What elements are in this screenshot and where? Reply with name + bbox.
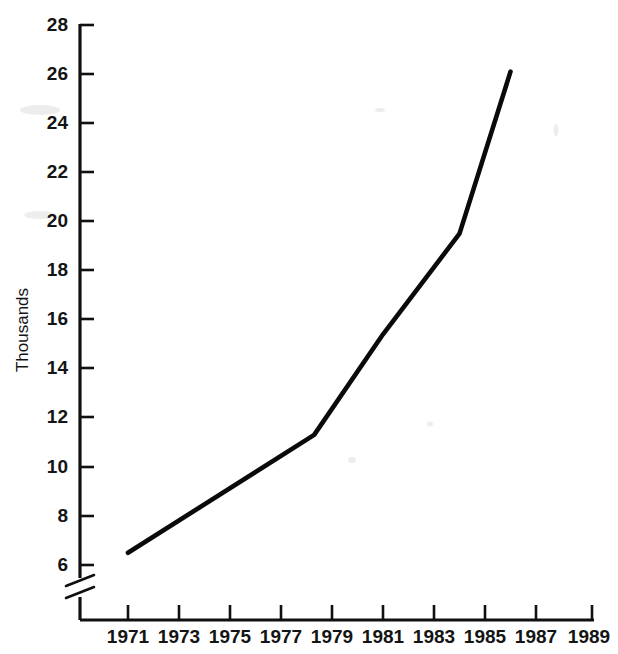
y-axis-title: Thousands [13, 288, 32, 372]
x-tick-label: 1971 [107, 626, 150, 647]
y-tick-label: 6 [57, 554, 68, 575]
y-tick-label: 28 [47, 14, 68, 35]
x-tick-label: 1989 [568, 626, 610, 647]
x-tick-label: 1977 [260, 626, 302, 647]
y-tick-label: 14 [47, 357, 69, 378]
x-tick-label: 1975 [209, 626, 252, 647]
x-tick-label: 1983 [413, 626, 455, 647]
y-tick-label: 10 [47, 456, 68, 477]
line-chart: 28 26 24 22 20 18 16 14 12 10 8 6 [0, 0, 618, 654]
y-tick-label: 16 [47, 308, 68, 329]
y-tick-label: 26 [47, 63, 68, 84]
y-tick-label: 18 [47, 259, 68, 280]
x-tick-label: 1985 [464, 626, 507, 647]
x-tick-label: 1987 [515, 626, 557, 647]
chart-background [0, 0, 618, 654]
chart-container: 28 26 24 22 20 18 16 14 12 10 8 6 [0, 0, 618, 654]
y-tick-label: 24 [47, 112, 69, 133]
y-tick-label: 22 [47, 161, 68, 182]
x-tick-label: 1973 [158, 626, 200, 647]
x-tick-label: 1981 [362, 626, 405, 647]
y-tick-label: 12 [47, 406, 68, 427]
y-tick-label: 20 [47, 210, 68, 231]
x-tick-label: 1979 [311, 626, 353, 647]
y-tick-label: 8 [57, 505, 68, 526]
